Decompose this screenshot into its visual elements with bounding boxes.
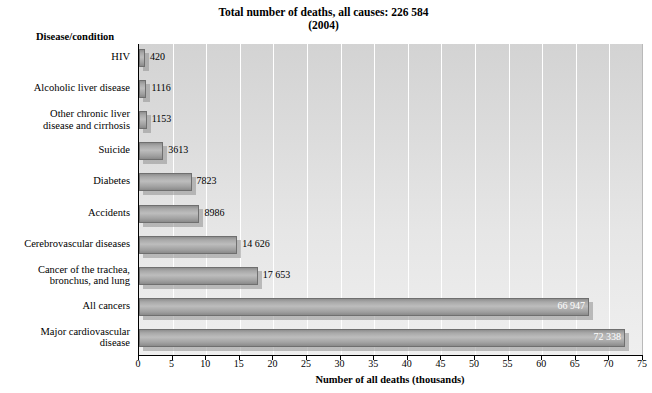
category-label: Other chronic liverdisease and cirrhosis (0, 108, 136, 131)
x-tick-label: 50 (461, 358, 487, 369)
bar-value-label: 7823 (197, 175, 217, 186)
category-label: HIV (0, 51, 136, 63)
bar-value-label: 1153 (152, 113, 172, 124)
category-label: Alcoholic liver disease (0, 82, 136, 94)
x-tick-label: 35 (360, 358, 386, 369)
chart-title: Total number of deaths, all causes: 226 … (0, 6, 647, 32)
x-tick-label: 30 (327, 358, 353, 369)
category-label-line: All cancers (0, 300, 130, 312)
category-label: Diabetes (0, 175, 136, 187)
bar[interactable] (139, 329, 625, 347)
x-tick-label: 20 (259, 358, 285, 369)
category-label-line: Alcoholic liver disease (0, 82, 130, 94)
bar-value-label: 14 626 (242, 238, 270, 249)
plot-area: 4201116115336137823898614 62617 65366 94… (138, 44, 643, 355)
category-label: Cancer of the trachea,bronchus, and lung (0, 264, 136, 287)
bar[interactable] (139, 205, 199, 223)
bar[interactable] (139, 236, 237, 254)
category-label-line: Other chronic liver (0, 108, 130, 120)
gridline (643, 44, 644, 355)
category-label-line: bronchus, and lung (0, 275, 130, 287)
bar-value-label: 1116 (151, 82, 170, 93)
category-label-line: disease (0, 337, 130, 349)
bar-value-label: 17 653 (263, 269, 291, 280)
bar-value-label: 3613 (168, 144, 188, 155)
plot-right-edge (642, 44, 643, 355)
bar[interactable] (139, 173, 192, 191)
category-label: Cerebrovascular diseases (0, 238, 136, 250)
bar[interactable] (139, 49, 145, 67)
bar-value-label: 8986 (204, 207, 224, 218)
x-tick-label: 55 (495, 358, 521, 369)
x-tick-label: 75 (629, 358, 652, 369)
bar[interactable] (139, 142, 163, 160)
bar[interactable] (139, 298, 589, 316)
category-label-line: Cancer of the trachea, (0, 264, 130, 276)
x-tick-label: 70 (595, 358, 621, 369)
category-axis-title: Disease/condition (36, 31, 114, 42)
x-tick-label: 25 (293, 358, 319, 369)
category-label: Suicide (0, 144, 136, 156)
gridline (609, 44, 610, 355)
x-tick-label: 65 (562, 358, 588, 369)
x-axis-title: Number of all deaths (thousands) (138, 374, 642, 385)
bar[interactable] (139, 80, 146, 98)
x-axis-line (138, 355, 643, 356)
category-label: All cancers (0, 300, 136, 312)
x-tick-label: 60 (528, 358, 554, 369)
category-label: Accidents (0, 207, 136, 219)
category-label-line: Suicide (0, 144, 130, 156)
bar-value-label: 420 (150, 51, 165, 62)
category-label-line: HIV (0, 51, 130, 63)
chart-title-line1: Total number of deaths, all causes: 226 … (218, 6, 428, 18)
bar-value-label: 72 338 (594, 331, 622, 342)
category-label-line: Cerebrovascular diseases (0, 238, 130, 250)
category-label: Major cardiovasculardisease (0, 326, 136, 349)
x-tick-label: 40 (394, 358, 420, 369)
x-tick-label: 5 (159, 358, 185, 369)
bar[interactable] (139, 267, 258, 285)
bar[interactable] (139, 111, 147, 129)
category-label-line: Major cardiovascular (0, 326, 130, 338)
x-tick-label: 10 (192, 358, 218, 369)
category-label-line: disease and cirrhosis (0, 120, 130, 132)
x-tick-label: 15 (226, 358, 252, 369)
category-label-line: Accidents (0, 207, 130, 219)
category-label-line: Diabetes (0, 175, 130, 187)
x-tick-label: 45 (427, 358, 453, 369)
bar-value-label: 66 947 (557, 300, 585, 311)
x-tick-label: 0 (125, 358, 151, 369)
